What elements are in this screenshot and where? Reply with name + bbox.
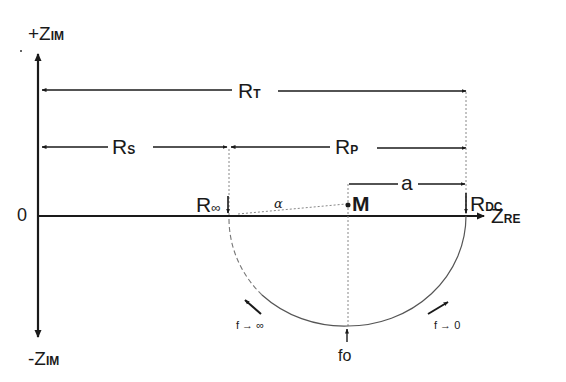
r-dc-subscript: DC xyxy=(485,200,502,214)
nyquist-diagram xyxy=(0,0,566,382)
y-negative-label: -ZIM xyxy=(28,349,59,368)
rt-label: RT xyxy=(238,80,261,101)
x-subscript: RE xyxy=(504,212,521,226)
low-frequency-label: f → 0 xyxy=(434,320,460,331)
center-point-m xyxy=(346,203,351,208)
origin-label: 0 xyxy=(17,206,27,224)
f0-label: fo xyxy=(338,348,351,364)
high-frequency-label: f → ∞ xyxy=(236,320,264,331)
r-inf-main: R xyxy=(196,193,211,216)
y-negative-prefix: -Z xyxy=(28,348,46,369)
rp-main: R xyxy=(335,135,350,158)
y-positive-prefix: +Z xyxy=(28,23,51,44)
r-dc-main: R xyxy=(470,192,485,215)
rt-subscript: T xyxy=(253,87,260,101)
rs-main: R xyxy=(112,135,127,158)
low-frequency-arrow xyxy=(428,302,448,314)
rp-label: RP xyxy=(335,136,358,157)
speck xyxy=(20,50,22,52)
center-m-label: M xyxy=(352,193,370,214)
y-positive-subscript: IM xyxy=(51,29,64,43)
alpha-label: α xyxy=(274,197,283,210)
y-negative-subscript: IM xyxy=(46,354,59,368)
rs-label: RS xyxy=(112,136,135,157)
high-frequency-arrow xyxy=(245,300,261,314)
r-inf-label: R∞ xyxy=(196,194,220,215)
r-inf-subscript: ∞ xyxy=(211,200,220,215)
rp-subscript: P xyxy=(350,143,358,157)
r-dc-label: RDC xyxy=(470,193,503,214)
radius-label: a xyxy=(401,172,413,193)
dotted-guides xyxy=(229,92,466,326)
rs-subscript: S xyxy=(127,143,135,157)
rt-main: R xyxy=(238,79,253,102)
y-positive-label: +ZIM xyxy=(28,24,64,43)
impedance-arc-dashed xyxy=(229,218,262,295)
